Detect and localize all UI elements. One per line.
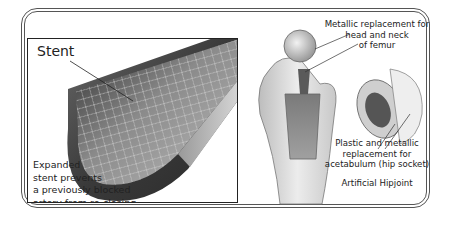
stent-caption: Expanded stent prevents a previously blo… [33, 159, 136, 203]
stent-illustration-panel: Stent Expanded stent prevents a previous… [27, 38, 238, 203]
stent-caption-line: stent prevents [33, 172, 136, 185]
acetabulum-replacement-label: Plastic and metallic replacement for ace… [322, 138, 432, 170]
label-line: Metallic replacement for [322, 19, 432, 30]
stent-caption-line: a previously blocked [33, 184, 136, 197]
hip-joint-title: Artificial Hipjoint [322, 178, 432, 189]
femoral-head [284, 30, 316, 62]
label-line: head and neck [322, 30, 432, 41]
label-line: Plastic and metallic [322, 138, 432, 149]
stent-caption-line: artery from re-closing [33, 197, 136, 204]
label-line: replacement for [322, 149, 432, 160]
label-line: of femur [322, 40, 432, 51]
stent-caption-line: Expanded [33, 159, 136, 172]
label-line: acetabulum (hip socket) [322, 159, 432, 170]
stent-title: Stent [37, 43, 74, 59]
femur-replacement-label: Metallic replacement for head and neck o… [322, 19, 432, 51]
